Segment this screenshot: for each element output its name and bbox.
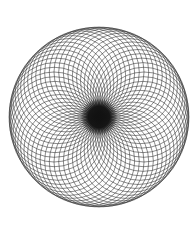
core-blob — [80, 98, 119, 137]
spirograph-rosette: Rosette of overlapping circles — [0, 0, 191, 229]
rosette-core — [80, 98, 119, 137]
figure-canvas: Rosette of overlapping circles — [0, 0, 191, 229]
